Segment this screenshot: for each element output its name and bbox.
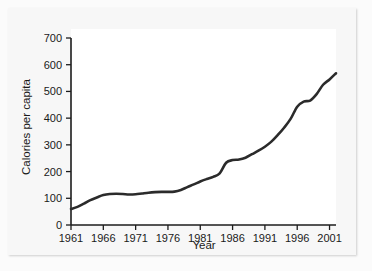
x-tick-label: 1986 bbox=[220, 232, 244, 244]
y-tick-label: 500 bbox=[44, 85, 62, 97]
plot-background bbox=[71, 29, 336, 225]
x-tick-label: 2001 bbox=[317, 232, 341, 244]
y-axis: 0100200300400500600700 bbox=[44, 32, 71, 231]
y-tick-label: 400 bbox=[44, 112, 62, 124]
x-tick-label: 1991 bbox=[253, 232, 277, 244]
line-chart: 0100200300400500600700 19611966197119761… bbox=[8, 8, 356, 255]
y-tick-label: 0 bbox=[56, 219, 62, 231]
y-tick-labels: 0100200300400500600700 bbox=[44, 32, 62, 231]
x-tick-label: 1971 bbox=[123, 232, 147, 244]
y-tick-label: 700 bbox=[44, 32, 62, 44]
y-tick-label: 200 bbox=[44, 166, 62, 178]
x-tick-label: 1961 bbox=[59, 232, 83, 244]
figure-card: 0100200300400500600700 19611966197119761… bbox=[8, 8, 356, 255]
y-tick-label: 300 bbox=[44, 139, 62, 151]
y-tick-label: 100 bbox=[44, 192, 62, 204]
x-tick-label: 1996 bbox=[285, 232, 309, 244]
x-axis-title: Year bbox=[192, 239, 215, 251]
x-tick-label: 1976 bbox=[156, 232, 180, 244]
y-axis-title: Calories per capita bbox=[20, 78, 32, 174]
y-tick-label: 600 bbox=[44, 59, 62, 71]
x-tick-label: 1966 bbox=[91, 232, 115, 244]
